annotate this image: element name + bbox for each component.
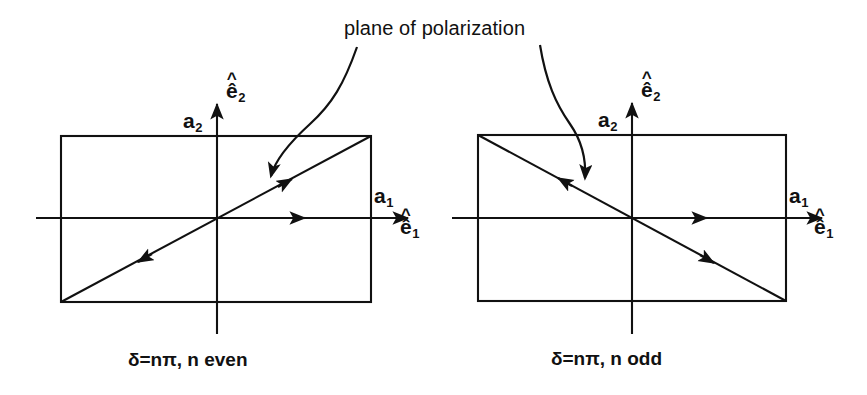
annotation-pointer-left	[271, 47, 357, 176]
y-axis-label-right: ^ê2	[641, 79, 660, 103]
hat-accent-icon: ^	[815, 206, 825, 223]
x-axis-label-right: ^ê1	[814, 216, 833, 240]
panel-left	[36, 47, 408, 334]
polarization-arrow-up-right	[558, 178, 572, 186]
plane-of-polarization-label: plane of polarization	[344, 18, 525, 38]
x-amplitude-label-right: a1	[789, 185, 808, 209]
x-amplitude-label-left: a1	[374, 185, 393, 209]
hat-accent-icon: ^	[401, 206, 411, 223]
hat-accent-icon: ^	[227, 70, 237, 87]
polarization-arrow-down-right	[700, 255, 714, 263]
panel-right	[452, 45, 822, 334]
x-axis-label-left: ^ê1	[400, 216, 419, 240]
polarization-arrow-down-left	[138, 254, 152, 262]
hat-accent-icon: ^	[642, 69, 652, 86]
caption-right: δ=nπ, n odd	[551, 349, 662, 368]
y-amplitude-label-right: a2	[598, 109, 617, 133]
figure-vector-canvas	[0, 0, 867, 395]
annotation-pointer-right	[540, 45, 585, 178]
y-axis-label-left: ^ê2	[226, 80, 245, 104]
caption-left: δ=nπ, n even	[128, 350, 248, 369]
polarization-figure: plane of polarization ^ê2 a2 a1 ^ê1 δ=nπ…	[0, 0, 867, 395]
polarization-arrow-up-left	[278, 179, 292, 187]
y-amplitude-label-left: a2	[183, 110, 202, 134]
